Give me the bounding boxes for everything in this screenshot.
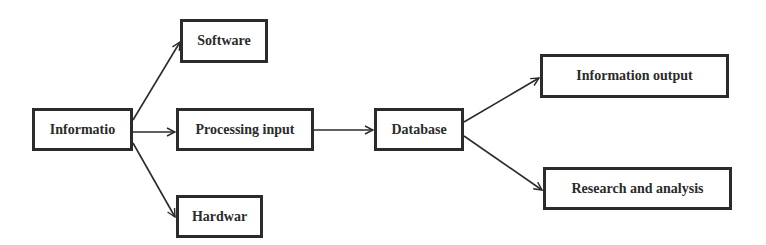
node-label: Processing input xyxy=(196,122,295,138)
node-label: Database xyxy=(391,122,446,138)
arrow-informatio-to-software xyxy=(133,42,180,120)
node-information-output: Information output xyxy=(540,54,729,98)
node-research-and-analysis: Research and analysis xyxy=(543,167,732,210)
node-hardwar: Hardwar xyxy=(176,195,263,238)
node-label: Informatio xyxy=(50,122,115,138)
arrow-database-to-info-output xyxy=(464,78,539,122)
node-label: Information output xyxy=(576,68,692,84)
node-processing-input: Processing input xyxy=(176,108,314,151)
node-database: Database xyxy=(374,108,464,151)
node-software: Software xyxy=(180,19,268,63)
node-label: Research and analysis xyxy=(572,181,704,197)
arrow-informatio-to-hardwar xyxy=(133,143,175,217)
node-label: Software xyxy=(197,33,250,49)
node-label: Hardwar xyxy=(192,209,247,225)
node-informatio: Informatio xyxy=(32,108,133,151)
arrow-database-to-research xyxy=(464,136,542,190)
